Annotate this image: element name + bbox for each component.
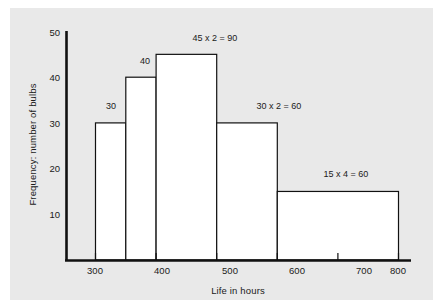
plot-area: Frequency: number of bulbs Life in hours…	[0, 0, 443, 308]
histogram-bar	[217, 123, 278, 260]
histogram-bar	[156, 54, 217, 260]
histogram-bar	[277, 191, 398, 260]
bars-group	[96, 54, 399, 260]
histogram-svg	[0, 0, 443, 308]
histogram-bar	[96, 123, 126, 260]
histogram-figure: Frequency: number of bulbs Life in hours…	[0, 0, 443, 308]
histogram-bar	[126, 77, 156, 260]
